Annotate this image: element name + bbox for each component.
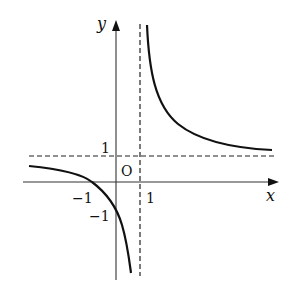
origin-label: O [121,163,132,179]
x-tick-label-negative: −1 [72,190,93,206]
y-tick-label-negative: −1 [89,208,110,224]
graph-canvas: y x O 1 1 −1 −1 [0,0,294,293]
y-axis-label: y [96,14,107,33]
hyperbola-figure: y x O 1 1 −1 −1 [0,0,294,293]
y-tick-label-positive: 1 [101,140,110,156]
x-axis-arrow-icon [268,178,279,186]
x-axis-label: x [266,186,275,205]
y-axis-arrow-icon [112,20,120,31]
curve-right-branch [147,25,272,150]
x-tick-label-positive: 1 [146,190,155,206]
